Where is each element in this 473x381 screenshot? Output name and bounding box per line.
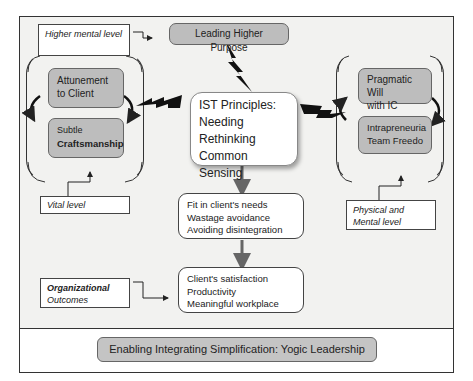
footer-title-box: Enabling Integrating Simplification: Yog…: [97, 337, 377, 362]
craftsmanship-line-2: Craftsmanship: [57, 137, 115, 150]
attunement-line-2: to Client: [57, 87, 115, 100]
attunement-line-1: Attunement: [57, 74, 115, 87]
pragmatic-line-2: with IC: [367, 99, 423, 112]
ist-line-rethinking: Rethinking: [199, 131, 289, 148]
attunement-to-client-box: Attunement to Client: [48, 68, 124, 108]
org-outcomes-line-2: Outcomes: [47, 294, 123, 306]
practice-line-3: Avoiding disintegration: [187, 224, 295, 237]
intrapreneuria-line-1: Intrapreneuria: [367, 121, 423, 134]
pragmatic-will-box: Pragmatic Will with IC: [358, 68, 432, 104]
label-higher-mental-level: Higher mental level: [38, 24, 130, 56]
craftsmanship-line-1: Subtle: [57, 124, 115, 137]
subtle-craftsmanship-box: Subtle Craftsmanship: [48, 118, 124, 158]
practice-line-2: Wastage avoidance: [187, 212, 295, 225]
outcome-line-3: Meaningful workplace: [187, 298, 295, 311]
leading-higher-purpose-box: Leading Higher Purpose: [169, 23, 289, 45]
ist-line-needing: Needing: [199, 114, 289, 131]
practices-box: Fit in client's needs Wastage avoidance …: [178, 193, 304, 239]
label-physical-mental-level: Physical and Mental level: [346, 200, 436, 230]
intrapreneuria-box: Intrapreneuria Team Freedo: [358, 116, 432, 154]
label-vital-level: Vital level: [40, 196, 130, 214]
label-organizational-outcomes: Organizational Outcomes: [40, 278, 130, 308]
outcomes-box: Client's satisfaction Productivity Meani…: [178, 267, 304, 313]
pragmatic-line-1: Pragmatic Will: [367, 73, 423, 99]
ist-line-common-sensing: Common Sensing: [199, 148, 289, 182]
ist-title: IST Principles:: [199, 97, 289, 114]
intrapreneuria-line-2: Team Freedo: [367, 134, 423, 147]
outcome-line-2: Productivity: [187, 286, 295, 299]
org-outcomes-line-1: Organizational: [47, 282, 123, 294]
outcome-line-1: Client's satisfaction: [187, 273, 295, 286]
practice-line-1: Fit in client's needs: [187, 199, 295, 212]
ist-principles-box: IST Principles: Needing Rethinking Commo…: [190, 92, 298, 166]
